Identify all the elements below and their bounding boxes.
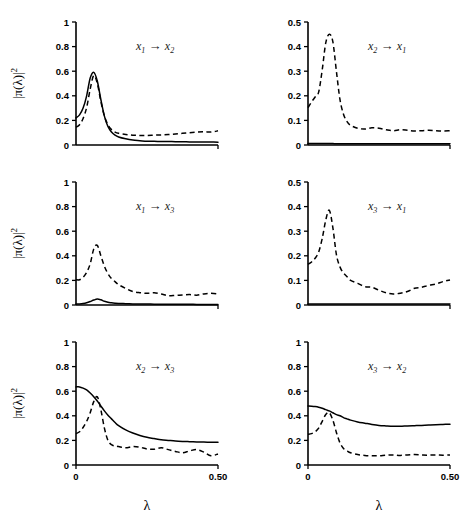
series-line-solid <box>76 299 218 304</box>
y-tick-label: 0.6 <box>288 386 301 397</box>
y-tick-label: 0.4 <box>288 410 302 421</box>
chart-panel-top-right: 00.10.20.30.40.5x2 → x1 <box>232 0 464 170</box>
panel-title: x1 → x2 <box>135 38 174 55</box>
y-axis-label: |π(λ)|2 <box>9 228 25 259</box>
y-tick-label: 1 <box>296 337 302 348</box>
x-tick-label: 0.50 <box>441 471 460 482</box>
y-tick-label: 0 <box>64 300 69 311</box>
chart-panel-middle-right: 00.10.20.30.40.5x3 → x1 <box>232 160 464 330</box>
y-tick-label: 0.3 <box>288 226 301 237</box>
svg-text:|π(λ)|2: |π(λ)|2 <box>9 388 25 419</box>
y-tick-label: 0.2 <box>288 435 301 446</box>
panel-title: x2 → x1 <box>367 38 406 55</box>
y-tick-label: 0 <box>296 460 301 471</box>
x-tick-label: 0.50 <box>209 471 228 482</box>
y-tick-label: 0.8 <box>56 361 69 372</box>
svg-text:|π(λ)|2: |π(λ)|2 <box>9 228 25 259</box>
panel-title: x1 → x3 <box>135 198 174 215</box>
panel-title: x3 → x2 <box>367 358 406 375</box>
chart-panel-bottom-right: 00.20.40.60.8100.50λx3 → x2 <box>232 320 464 515</box>
x-tick-label: 0 <box>73 471 78 482</box>
y-tick-label: 0.3 <box>288 66 301 77</box>
y-tick-label: 0.6 <box>56 386 69 397</box>
y-tick-label: 0 <box>64 460 69 471</box>
y-tick-label: 0.5 <box>288 17 302 28</box>
svg-text:|π(λ)|2: |π(λ)|2 <box>9 68 25 99</box>
y-tick-label: 0.2 <box>288 90 301 101</box>
y-tick-label: 0.6 <box>56 226 69 237</box>
y-tick-label: 1 <box>64 337 70 348</box>
series-line-dashed <box>76 245 218 296</box>
y-tick-label: 0.8 <box>56 201 69 212</box>
x-axis-label: λ <box>144 498 151 513</box>
x-axis-label: λ <box>376 498 383 513</box>
y-tick-label: 1 <box>64 17 70 28</box>
chart-panel-top-left: 00.20.40.60.81|π(λ)|2x1 → x2 <box>0 0 232 170</box>
series-line-dashed <box>308 412 450 455</box>
y-tick-label: 0.4 <box>288 41 302 52</box>
y-tick-label: 0.4 <box>56 410 70 421</box>
y-tick-label: 0.4 <box>288 201 302 212</box>
y-tick-label: 0.1 <box>288 115 302 126</box>
y-tick-label: 0.4 <box>56 250 70 261</box>
chart-panel-bottom-left: 00.20.40.60.8100.50λ|π(λ)|2x2 → x3 <box>0 320 232 515</box>
series-line-dashed <box>308 210 450 294</box>
y-tick-label: 0.6 <box>56 66 69 77</box>
y-tick-label: 0.4 <box>56 90 70 101</box>
y-tick-label: 0 <box>64 140 69 151</box>
series-line-dashed <box>76 396 218 455</box>
panel-title: x3 → x1 <box>367 198 406 215</box>
chart-panel-middle-left: 00.20.40.60.81|π(λ)|2x1 → x3 <box>0 160 232 330</box>
y-tick-label: 0.8 <box>288 361 301 372</box>
y-tick-label: 0.8 <box>56 41 69 52</box>
series-line-solid <box>76 387 218 442</box>
series-line-solid <box>76 72 218 142</box>
y-axis-label: |π(λ)|2 <box>9 388 25 419</box>
panel-title: x2 → x3 <box>135 358 174 375</box>
y-tick-label: 0.2 <box>56 275 69 286</box>
y-tick-label: 0.2 <box>56 115 69 126</box>
y-axis-label: |π(λ)|2 <box>9 68 25 99</box>
series-line-solid <box>308 406 450 426</box>
y-tick-label: 0 <box>296 300 301 311</box>
y-tick-label: 0.1 <box>288 275 302 286</box>
y-tick-label: 0.2 <box>56 435 69 446</box>
figure-panel-grid: 00.20.40.60.81|π(λ)|2x1 → x200.10.20.30.… <box>0 0 464 515</box>
y-tick-label: 1 <box>64 177 70 188</box>
x-tick-label: 0 <box>305 471 310 482</box>
y-tick-label: 0.5 <box>288 177 302 188</box>
y-tick-label: 0.2 <box>288 250 301 261</box>
y-tick-label: 0 <box>296 140 301 151</box>
